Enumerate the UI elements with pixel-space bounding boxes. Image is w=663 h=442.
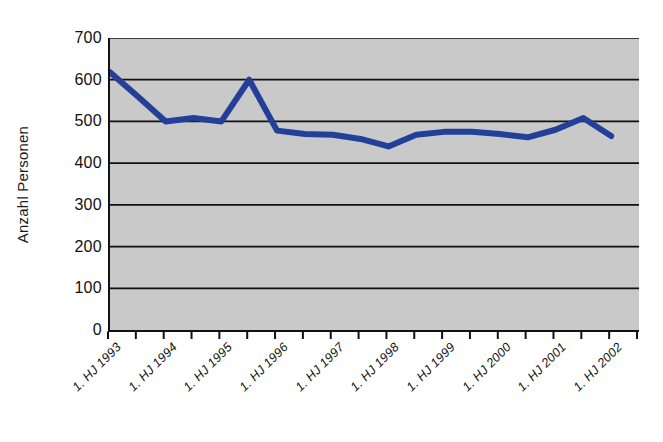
- y-axis-title-text: Anzahl Personen: [15, 125, 32, 242]
- y-axis-tick-label: 200: [74, 238, 102, 256]
- series-line: [110, 72, 611, 146]
- x-axis-tick-label: 1. HJ 2001: [515, 340, 569, 394]
- y-axis-tick-labels: 0100200300400500600700: [40, 0, 102, 442]
- x-axis-tick-label: 1. HJ 1997: [293, 340, 347, 394]
- x-axis-tick-label: 1. HJ 1994: [125, 340, 179, 394]
- y-axis-tick-label: 400: [74, 154, 102, 172]
- y-axis-tick-label: 100: [74, 279, 102, 297]
- x-axis-tick-label: 1. HJ 2002: [571, 340, 625, 394]
- x-axis-tick-label: 1. HJ 1999: [404, 340, 458, 394]
- y-axis-title: Anzahl Personen: [8, 38, 38, 330]
- y-axis-tick-label: 0: [93, 321, 102, 339]
- plot-area: [108, 38, 639, 332]
- y-axis-tick-label: 500: [74, 112, 102, 130]
- chart-canvas: [110, 38, 639, 330]
- gridlines: [110, 38, 639, 288]
- x-axis-tick-label: 1. HJ 1998: [348, 340, 402, 394]
- x-axis-tick-label: 1. HJ 2000: [460, 340, 514, 394]
- line-chart: Anzahl Personen 0100200300400500600700 1…: [0, 0, 663, 442]
- x-axis-tick-label: 1. HJ 1995: [181, 340, 235, 394]
- plot-inner: [110, 38, 639, 330]
- data-series: [110, 72, 611, 146]
- y-axis-tick-label: 700: [74, 29, 102, 47]
- x-axis-tick-label: 1. HJ 1996: [237, 340, 291, 394]
- y-axis-tick-label: 600: [74, 71, 102, 89]
- y-axis-tick-label: 300: [74, 196, 102, 214]
